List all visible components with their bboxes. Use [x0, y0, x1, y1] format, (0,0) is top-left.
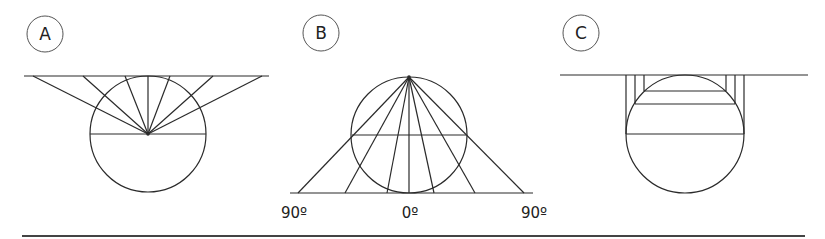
panel-a-label: A — [39, 24, 51, 44]
projection-diagram: A B — [0, 0, 825, 239]
panel-a-center-point — [146, 132, 150, 136]
panel-b-label-left-90: 90º — [281, 204, 307, 222]
panel-c-label: C — [575, 23, 587, 43]
panel-b-label: B — [315, 23, 327, 43]
panel-a: A — [24, 16, 269, 192]
panel-c-projectors — [626, 75, 744, 134]
panel-b: B 90º 0º 90º — [281, 15, 547, 222]
panel-a-label-badge: A — [27, 16, 63, 52]
panel-c: C — [560, 15, 808, 193]
panel-a-rays — [33, 76, 262, 134]
panel-b-label-center-0: 0º — [402, 204, 419, 222]
panel-b-apex-point — [407, 75, 411, 79]
panel-b-label-badge: B — [303, 15, 339, 51]
panel-b-label-right-90: 90º — [521, 204, 547, 222]
panel-c-label-badge: C — [563, 15, 599, 51]
